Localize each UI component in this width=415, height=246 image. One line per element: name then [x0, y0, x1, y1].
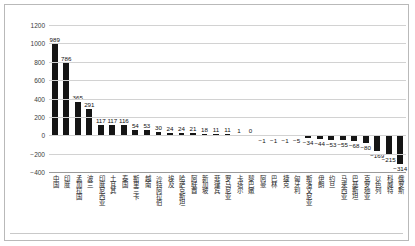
x-label-21: 匈牙利: [293, 175, 300, 193]
y-tick--200: −200: [7, 150, 45, 157]
bar-2: [75, 102, 81, 136]
value-label-22: −34: [303, 139, 314, 146]
value-label-23: −44: [314, 140, 325, 147]
x-label-28: 以色列: [374, 175, 381, 193]
value-label-0: 989: [50, 36, 60, 43]
bar-29: [386, 135, 392, 155]
x-label-29: 科威特: [385, 175, 392, 193]
value-label-8: 53: [143, 122, 150, 129]
x-label-20: 捷克: [282, 175, 289, 187]
value-label-13: 18: [201, 126, 208, 133]
x-label-26: 巴基斯坦: [351, 175, 358, 199]
value-label-14: 11: [213, 126, 219, 133]
value-label-20: −1: [282, 137, 289, 144]
x-label-23: 伊朗: [316, 175, 323, 187]
x-label-13: 新加坡: [201, 175, 208, 193]
chart-frame: 120010008006004002000−200−400 9897863652…: [4, 4, 409, 241]
y-tick-800: 800: [7, 58, 45, 65]
bar-4: [98, 125, 104, 136]
y-axis-tick-labels: 120010008006004002000−200−400: [5, 25, 45, 172]
x-label-9: 沙特阿拉伯: [155, 175, 162, 205]
value-label-10: 24: [166, 125, 173, 132]
value-label-7: 54: [132, 122, 139, 129]
gridline--400: [49, 172, 406, 173]
bar-0: [52, 44, 58, 135]
value-label-24: −53: [326, 141, 337, 148]
y-tick-600: 600: [7, 77, 45, 84]
y-tick-200: 200: [7, 113, 45, 120]
bottom-divider: [10, 233, 403, 234]
x-label-7: 斯里兰卡: [132, 175, 139, 199]
y-tick-1000: 1000: [7, 40, 45, 47]
x-label-25: 马来西亚: [339, 175, 346, 199]
bar-28: [374, 135, 380, 151]
zero-axis-line: [49, 135, 406, 136]
x-label-11: 哈萨克斯坦: [178, 175, 185, 205]
value-label-15: 11: [224, 126, 230, 133]
x-label-19: 巴林: [270, 175, 277, 187]
gridline-1000: [49, 43, 406, 44]
gridline-800: [49, 62, 406, 63]
x-label-8: 越南: [143, 175, 150, 187]
value-label-2: 365: [73, 94, 83, 101]
value-label-16: 1: [237, 127, 240, 134]
x-label-10: 埃及: [167, 175, 174, 187]
value-label-27: −80: [360, 144, 371, 151]
x-label-12: 阿联酋: [190, 175, 197, 193]
y-tick-1200: 1200: [7, 22, 45, 29]
x-label-4: 印度尼西亚: [97, 175, 104, 205]
value-label-11: 24: [178, 125, 185, 132]
value-label-3: 291: [84, 101, 94, 108]
value-label-29: −215: [382, 156, 396, 163]
value-label-12: 21: [189, 125, 196, 132]
bar-27: [363, 135, 369, 142]
bar-30: [397, 135, 403, 164]
x-label-18: 阿曼: [259, 175, 266, 187]
x-label-1: 印度: [63, 175, 70, 187]
chart-screenshot: 120010008006004002000−200−400 9897863652…: [0, 0, 415, 246]
x-label-3: 波兰: [86, 175, 93, 187]
value-label-18: −1: [259, 137, 266, 144]
x-label-27: 克罗地亚: [362, 175, 369, 199]
bar-5: [109, 125, 115, 136]
value-label-25: −55: [337, 141, 348, 148]
x-label-24: 约旦: [328, 175, 335, 187]
bar-3: [86, 109, 92, 136]
plot-area: 9897863652911171171165453302424211811111…: [49, 25, 406, 172]
gridline-600: [49, 80, 406, 81]
value-label-19: −1: [270, 137, 277, 144]
x-label-0: 中国: [51, 175, 58, 187]
x-label-22: 斯洛文尼亚: [305, 175, 312, 205]
x-label-14: 菲律宾: [213, 175, 220, 193]
x-label-17: 黎巴嫩: [247, 175, 254, 193]
y-tick--400: −400: [7, 169, 45, 176]
value-label-21: −5: [293, 137, 300, 144]
value-label-17: 0: [249, 127, 252, 134]
x-label-15: 罗马尼亚: [224, 175, 231, 199]
gridline-400: [49, 99, 406, 100]
x-label-2: 孟加拉国: [74, 175, 81, 199]
gridline--200: [49, 154, 406, 155]
gridline-1200: [49, 25, 406, 26]
value-label-26: −68: [349, 142, 360, 149]
x-label-6: 泰国: [120, 175, 127, 187]
bar-6: [121, 125, 127, 136]
x-label-30: 俄罗斯: [397, 175, 404, 193]
y-tick-0: 0: [7, 132, 45, 139]
x-label-5: 土耳其: [109, 175, 116, 193]
value-label-9: 30: [155, 124, 162, 131]
y-tick-400: 400: [7, 95, 45, 102]
x-label-16: 卡塔尔: [236, 175, 243, 193]
gridline-200: [49, 117, 406, 118]
